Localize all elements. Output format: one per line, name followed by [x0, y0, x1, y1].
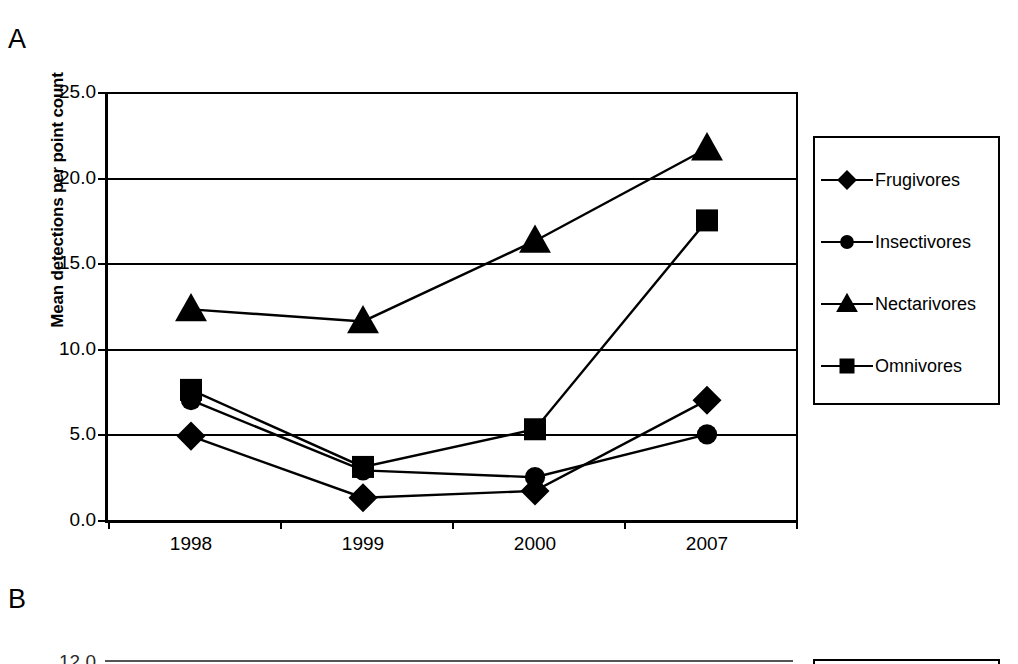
data-point-marker-triangle — [175, 293, 207, 321]
data-point-marker-diamond — [176, 422, 205, 451]
series-plot — [105, 92, 793, 520]
y-axis-tick-label: 0.0 — [38, 510, 96, 529]
x-axis-tick-mark — [108, 520, 110, 529]
x-axis-tick-label: 1998 — [131, 534, 251, 553]
legend-item-frugivores: Frugivores — [815, 160, 998, 200]
legend-marker-triangle-icon — [819, 289, 875, 319]
legend-marker-diamond-icon — [819, 165, 875, 195]
data-point-marker-triangle — [519, 224, 551, 252]
x-axis-tick-mark — [796, 520, 798, 529]
panel-b-legend — [813, 659, 1000, 664]
data-point-marker-square — [180, 379, 202, 401]
data-point-marker-circle — [525, 467, 545, 487]
data-point-marker-square — [524, 418, 546, 440]
x-axis-tick-label: 2007 — [647, 534, 767, 553]
x-axis-tick-label: 2000 — [475, 534, 595, 553]
chart-legend: FrugivoresInsectivoresNectarivoresOmnivo… — [813, 136, 1000, 405]
data-point-marker-diamond — [692, 386, 721, 415]
series-line — [191, 220, 707, 467]
legend-label: Nectarivores — [875, 295, 976, 313]
y-axis-tick-label: 25.0 — [38, 82, 96, 101]
data-point-marker-triangle — [347, 305, 379, 333]
legend-marker-square-icon — [819, 351, 875, 381]
series-line — [191, 148, 707, 321]
data-point-marker-circle — [697, 424, 717, 444]
y-axis-tick-label: 20.0 — [38, 168, 96, 187]
panel-b-y-tick-label: 12.0 — [38, 652, 96, 664]
series-insectivores — [181, 390, 717, 487]
x-axis-tick-mark — [624, 520, 626, 529]
data-point-marker-triangle — [691, 132, 723, 160]
legend-marker-circle-icon — [819, 227, 875, 257]
legend-item-nectarivores: Nectarivores — [815, 284, 998, 324]
x-axis-tick-mark — [280, 520, 282, 529]
series-nectarivores — [175, 132, 723, 333]
panel-b-plot-top-border — [105, 660, 793, 662]
panel-a-label: A — [8, 26, 26, 53]
y-axis-tick-mark — [98, 520, 108, 522]
panel-b-label: B — [8, 586, 26, 613]
panel-b-figure: B 12.0 — [0, 560, 1018, 664]
legend-label: Insectivores — [875, 233, 971, 251]
data-point-marker-square — [696, 209, 718, 231]
y-axis-tick-label: 5.0 — [38, 424, 96, 443]
x-axis-tick-mark — [452, 520, 454, 529]
legend-label: Omnivores — [875, 357, 962, 375]
series-line — [191, 400, 707, 477]
y-axis-tick-labels: 25.020.015.010.05.00.0 — [38, 0, 96, 560]
y-axis-tick-label: 15.0 — [38, 253, 96, 272]
legend-item-omnivores: Omnivores — [815, 346, 998, 386]
y-axis-tick-label: 10.0 — [38, 339, 96, 358]
legend-label: Frugivores — [875, 171, 960, 189]
legend-item-insectivores: Insectivores — [815, 222, 998, 262]
panel-a-figure: A Mean detections per point count 25.020… — [0, 0, 1018, 560]
data-point-marker-diamond — [348, 483, 377, 512]
x-axis-tick-label: 1999 — [303, 534, 423, 553]
data-point-marker-square — [352, 456, 374, 478]
